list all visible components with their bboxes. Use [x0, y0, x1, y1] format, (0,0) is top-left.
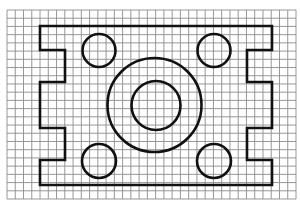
- center-ring-outer: [108, 58, 202, 152]
- hole-top-right: [198, 34, 231, 67]
- grid-diagram: [0, 0, 300, 204]
- hole-bottom-left: [82, 144, 116, 178]
- hole-top-left: [83, 34, 116, 67]
- circles-group: [82, 34, 231, 178]
- graph-paper-grid: [7, 10, 296, 199]
- hole-bottom-right: [197, 144, 231, 178]
